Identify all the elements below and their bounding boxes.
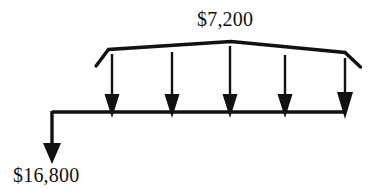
receipt-arrow-5 xyxy=(337,58,353,119)
receipt-arrow-5-head xyxy=(337,92,353,119)
receipt-bracket xyxy=(96,42,361,68)
receipt-arrow-1-head xyxy=(105,94,120,118)
cash-flow-diagram: $7,200 $16,800 xyxy=(0,0,382,195)
receipt-arrow-1 xyxy=(105,54,120,118)
receipt-arrow-4-head xyxy=(278,94,293,118)
payment-arrow xyxy=(43,111,61,164)
receipt-arrow-group xyxy=(105,46,354,119)
receipt-arrow-2-head xyxy=(165,94,180,118)
receipt-amount-label: $7,200 xyxy=(197,9,253,29)
receipt-arrow-3-head xyxy=(223,94,238,118)
receipt-arrow-2 xyxy=(165,52,180,118)
bracket-path xyxy=(96,42,361,68)
receipt-arrow-3 xyxy=(223,46,238,118)
payment-amount-label: $16,800 xyxy=(13,165,79,185)
receipt-arrow-4 xyxy=(278,55,293,118)
payment-arrow-head xyxy=(43,143,61,164)
